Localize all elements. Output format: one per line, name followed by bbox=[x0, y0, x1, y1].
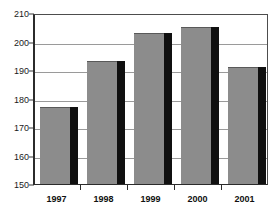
bar[interactable] bbox=[134, 33, 172, 184]
y-axis-tick-label: 150 bbox=[3, 181, 29, 190]
y-axis-tick-label: 180 bbox=[3, 95, 29, 104]
bar[interactable] bbox=[40, 107, 78, 184]
y-axis-tick-label: 170 bbox=[3, 124, 29, 133]
bar-shadow-edge bbox=[117, 61, 125, 184]
plot-area bbox=[33, 14, 268, 185]
y-axis-tick-label: 190 bbox=[3, 67, 29, 76]
bar-shadow-edge bbox=[258, 67, 266, 184]
bar-shadow-edge bbox=[164, 33, 172, 184]
y-axis-tick-label: 160 bbox=[3, 152, 29, 161]
bars-layer bbox=[35, 15, 267, 184]
bar[interactable] bbox=[228, 67, 266, 184]
y-axis-tick-label: 210 bbox=[3, 10, 29, 19]
bar-shadow-edge bbox=[211, 27, 219, 184]
x-axis-category-label: 1999 bbox=[140, 194, 160, 204]
bar-body bbox=[87, 61, 117, 184]
bar-body bbox=[134, 33, 164, 184]
bar-chart: 150160170180190200210 199719981999200020… bbox=[0, 0, 277, 215]
y-axis-tick-label: 200 bbox=[3, 38, 29, 47]
bar[interactable] bbox=[87, 61, 125, 184]
x-axis-tick-mark bbox=[80, 185, 81, 190]
x-axis-category-label: 2001 bbox=[234, 194, 254, 204]
x-axis-category-label: 1997 bbox=[46, 194, 66, 204]
bar[interactable] bbox=[181, 27, 219, 184]
x-axis-category-label: 2000 bbox=[187, 194, 207, 204]
x-axis-tick-mark bbox=[127, 185, 128, 190]
bar-shadow-edge bbox=[70, 107, 78, 184]
x-axis-category-label: 1998 bbox=[93, 194, 113, 204]
bar-body bbox=[228, 67, 258, 184]
x-axis: 19971998199920002001 bbox=[33, 185, 269, 215]
bar-body bbox=[181, 27, 211, 184]
y-axis-labels: 150160170180190200210 bbox=[0, 0, 29, 215]
x-axis-tick-mark bbox=[174, 185, 175, 190]
bar-body bbox=[40, 107, 70, 184]
x-axis-tick-mark bbox=[221, 185, 222, 190]
